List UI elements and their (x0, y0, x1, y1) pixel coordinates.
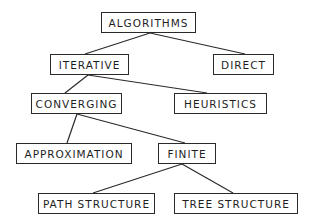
node-algorithms: ALGORITHMS (101, 12, 196, 33)
edge-finite-tree-structure (182, 164, 233, 193)
edge-algorithms-iterative (85, 33, 150, 54)
node-iterative: ITERATIVE (50, 54, 129, 75)
node-converging: CONVERGING (31, 93, 122, 114)
node-approximation: APPROXIMATION (16, 143, 132, 164)
node-heuristics: HEURISTICS (174, 93, 267, 114)
node-tree-structure: TREE STRUCTURE (174, 193, 298, 214)
node-finite: FINITE (158, 143, 216, 164)
node-direct: DIRECT (213, 54, 274, 75)
node-path-structure: PATH STRUCTURE (38, 193, 155, 214)
edge-converging-approximation (67, 114, 77, 143)
algorithm-taxonomy-tree: ALGORITHMS ITERATIVE DIRECT CONVERGING H… (0, 0, 309, 224)
edge-finite-path-structure (93, 164, 182, 193)
edge-iterative-converging (65, 75, 88, 93)
edge-iterative-heuristics (88, 75, 207, 93)
edge-algorithms-direct (150, 33, 245, 54)
edge-converging-finite (77, 114, 185, 143)
